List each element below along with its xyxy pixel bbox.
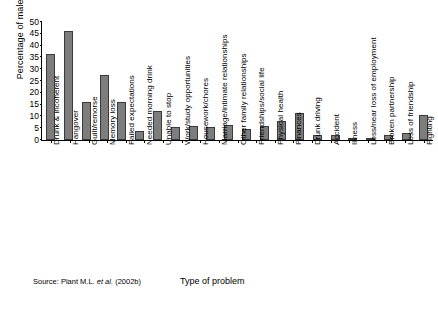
y-axis-tick-label: 15	[15, 100, 42, 109]
x-axis-tick-label: Other family relationships	[240, 53, 248, 145]
x-axis-tick-label: Loss/near loss of employment	[370, 37, 378, 145]
y-axis-tick-label: 5	[15, 124, 42, 133]
source-suffix: (2002b)	[113, 277, 141, 286]
x-axis-tick-label: Friendships/social life	[258, 67, 266, 145]
x-axis-tick-label: Broken partnership	[388, 77, 396, 146]
x-axis-tick-label: Failed expectations	[128, 75, 136, 145]
x-axis-title: Type of problem	[180, 276, 245, 286]
y-axis-tick-label: 35	[15, 53, 42, 62]
y-axis-tick-label: 25	[15, 77, 42, 86]
y-axis-tick-label: 10	[15, 112, 42, 121]
source-prefix: Source: Plant M.L.	[33, 277, 97, 286]
source-note: Source: Plant M.L. et al. (2002b)	[33, 277, 141, 286]
x-axis-tick-label: Work/study opportunities	[184, 56, 192, 145]
x-axis-tick-label: Guilt/remorse	[91, 96, 99, 145]
bar	[153, 111, 162, 141]
x-axis-tick-label: Finances	[295, 112, 303, 145]
x-axis-tick-label: Hangover	[72, 110, 80, 145]
y-axis-tick-label: 30	[15, 65, 42, 74]
bar	[117, 102, 126, 140]
x-axis-tick-label: Housework/chores	[202, 78, 210, 145]
x-axis-tick-label: Physical health	[277, 90, 285, 145]
x-axis-tick-label: Unable to stop	[165, 93, 173, 145]
x-axis-tick-label: Loss of friendship	[407, 81, 415, 145]
y-axis-tick-label: 45	[15, 30, 42, 39]
x-axis-tick-label: Drunk driving	[314, 97, 322, 145]
y-axis-tick-label: 0	[15, 136, 42, 145]
bar	[135, 131, 144, 140]
y-axis-tick-label: 40	[15, 41, 42, 50]
x-axis-tick-label: Illness	[351, 122, 359, 145]
x-axis-tick-label: Marriage/intimate relationships	[221, 35, 229, 146]
y-axis-tick-label: 50	[15, 18, 42, 27]
bar-chart-figure: Percentage of males 05101520253035404550…	[0, 0, 438, 309]
source-italic: et al.	[97, 277, 113, 286]
y-axis-tick-label: 20	[15, 89, 42, 98]
x-axis-labels: Drunk & incoherentHangoverGuilt/remorseM…	[41, 145, 432, 255]
x-axis-tick-label: Drunk & incoherent	[53, 76, 61, 145]
x-axis-tick-label: Needed morning drink	[146, 65, 154, 145]
x-axis-tick-label: Memory loss	[109, 99, 117, 145]
x-axis-tick-label: Fighting	[426, 116, 434, 145]
x-axis-tick-label: Accident	[333, 114, 341, 145]
